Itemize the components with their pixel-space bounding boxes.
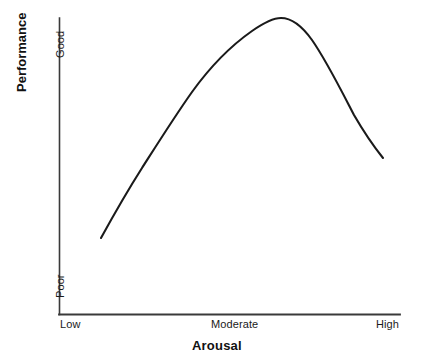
x-axis-title: Arousal [192, 338, 242, 353]
x-tick-high: High [376, 318, 399, 330]
y-tick-poor-text: Poor [54, 274, 66, 298]
y-tick-good-text: Good [54, 31, 66, 58]
performance-curve [101, 18, 383, 238]
chart-figure: Good Poor Performance Low Moderate High … [0, 0, 425, 361]
y-axis-title-text: Performance [14, 13, 29, 92]
x-tick-moderate: Moderate [211, 318, 258, 330]
x-tick-low: Low [60, 318, 80, 330]
